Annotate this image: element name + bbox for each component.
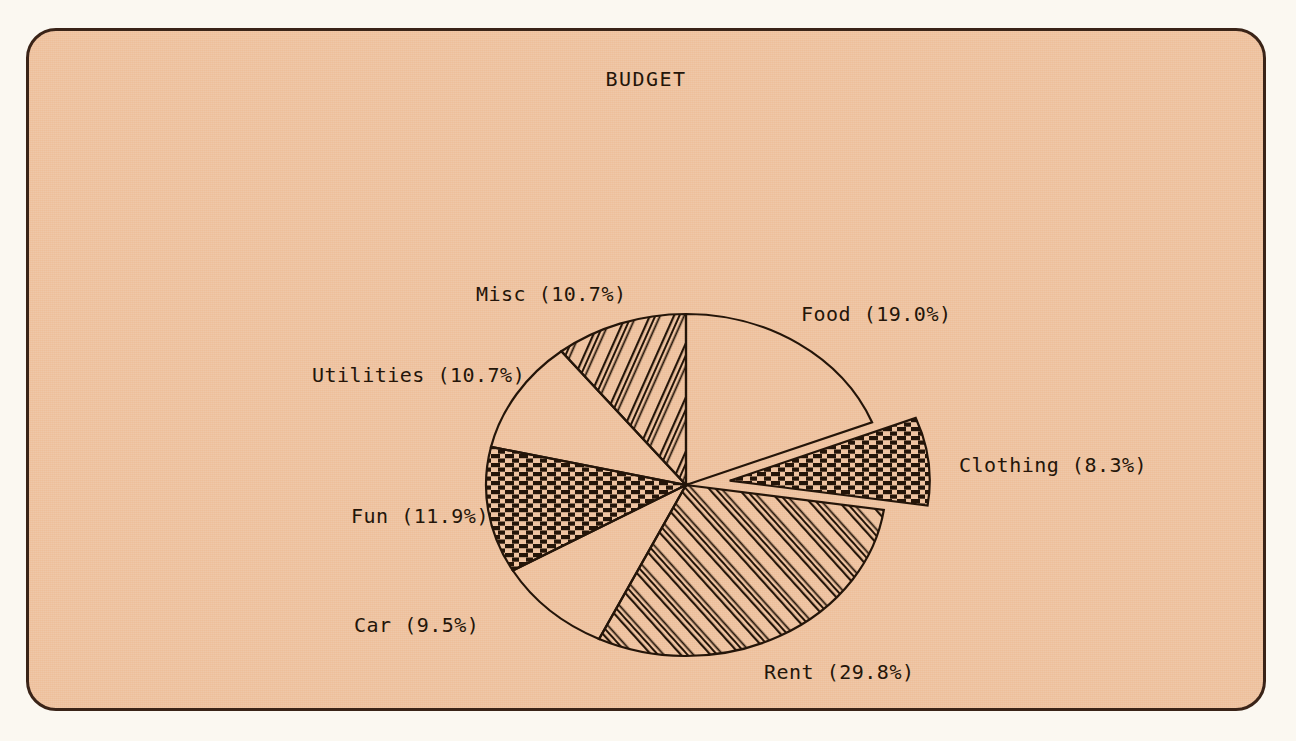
pie-label-food: Food (19.0%) [801,302,952,326]
pie-label-misc: Misc (10.7%) [476,282,627,306]
pie-chart-svg: Food (19.0%)Clothing (8.3%)Rent (29.8%)C… [29,31,1269,714]
pie-label-fun: Fun (11.9%) [351,504,489,528]
pie-label-car: Car (9.5%) [354,613,479,637]
chart-frame: BUDGET [26,28,1266,711]
pie-label-utilities: Utilities (10.7%) [312,363,525,387]
pie-slice-clothing[interactable] [730,418,930,506]
pie-slice-misc[interactable] [561,314,686,485]
pie-chart: Food (19.0%)Clothing (8.3%)Rent (29.8%)C… [29,31,1263,708]
pie-slice-rent[interactable] [599,485,884,656]
page-title: BUDGET [29,67,1263,91]
screenshot-canvas: BUDGET [0,0,1296,741]
pie-slices [486,314,930,656]
pie-label-clothing: Clothing (8.3%) [959,453,1147,477]
pie-label-rent: Rent (29.8%) [764,660,915,684]
